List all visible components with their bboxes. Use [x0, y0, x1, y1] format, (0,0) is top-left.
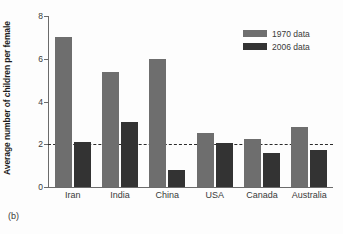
y-axis-title-wrapper: Average number of children per female	[2, 14, 28, 184]
legend-item-1970: 1970 data	[243, 27, 310, 40]
legend-label-2006: 2006 data	[272, 42, 310, 52]
y-tick-label: 4	[38, 97, 43, 107]
x-axis-label-canada: Canada	[238, 190, 285, 200]
x-axis-label-usa: USA	[191, 190, 238, 200]
bar-group-china	[144, 16, 191, 187]
figure-panel: Average number of children per female 02…	[0, 0, 343, 234]
bar-australia-1970	[291, 127, 308, 187]
y-axis-title: Average number of children per female	[2, 14, 12, 182]
x-axis-label-iran: Iran	[49, 190, 96, 200]
legend-label-1970: 1970 data	[272, 29, 310, 39]
bar-china-1970	[149, 59, 166, 187]
bar-china-2006	[168, 170, 185, 187]
y-tick-label: 2	[38, 139, 43, 149]
bar-iran-2006	[74, 142, 91, 187]
y-tick-label: 8	[38, 11, 43, 21]
bar-group-india	[96, 16, 143, 187]
bar-iran-1970	[55, 37, 72, 187]
x-axis-label-australia: Australia	[286, 190, 333, 200]
bar-india-1970	[102, 72, 119, 187]
bar-group-iran	[49, 16, 96, 187]
legend: 1970 data 2006 data	[243, 27, 310, 53]
bar-canada-2006	[263, 153, 280, 187]
bar-group-usa	[191, 16, 238, 187]
x-axis-labels: IranIndiaChinaUSACanadaAustralia	[49, 190, 333, 200]
figure-caption: (b)	[8, 211, 19, 221]
bar-australia-2006	[310, 150, 327, 187]
bar-canada-1970	[244, 139, 261, 187]
legend-swatch-1970	[243, 30, 267, 37]
y-tick-label: 0	[38, 182, 43, 192]
y-tick-mark	[44, 59, 48, 60]
bar-usa-2006	[216, 143, 233, 187]
x-axis-label-china: China	[144, 190, 191, 200]
y-tick-mark	[44, 102, 48, 103]
legend-item-2006: 2006 data	[243, 40, 310, 53]
x-axis-line	[48, 187, 333, 188]
x-axis-label-india: India	[96, 190, 143, 200]
bar-india-2006	[121, 122, 138, 187]
y-tick-mark	[44, 16, 48, 17]
bar-usa-1970	[197, 133, 214, 188]
y-tick-label: 6	[38, 54, 43, 64]
legend-swatch-2006	[243, 43, 267, 50]
y-tick-mark	[44, 187, 48, 188]
